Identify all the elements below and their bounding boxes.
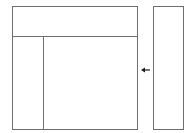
arrow-left-icon bbox=[0, 0, 189, 133]
